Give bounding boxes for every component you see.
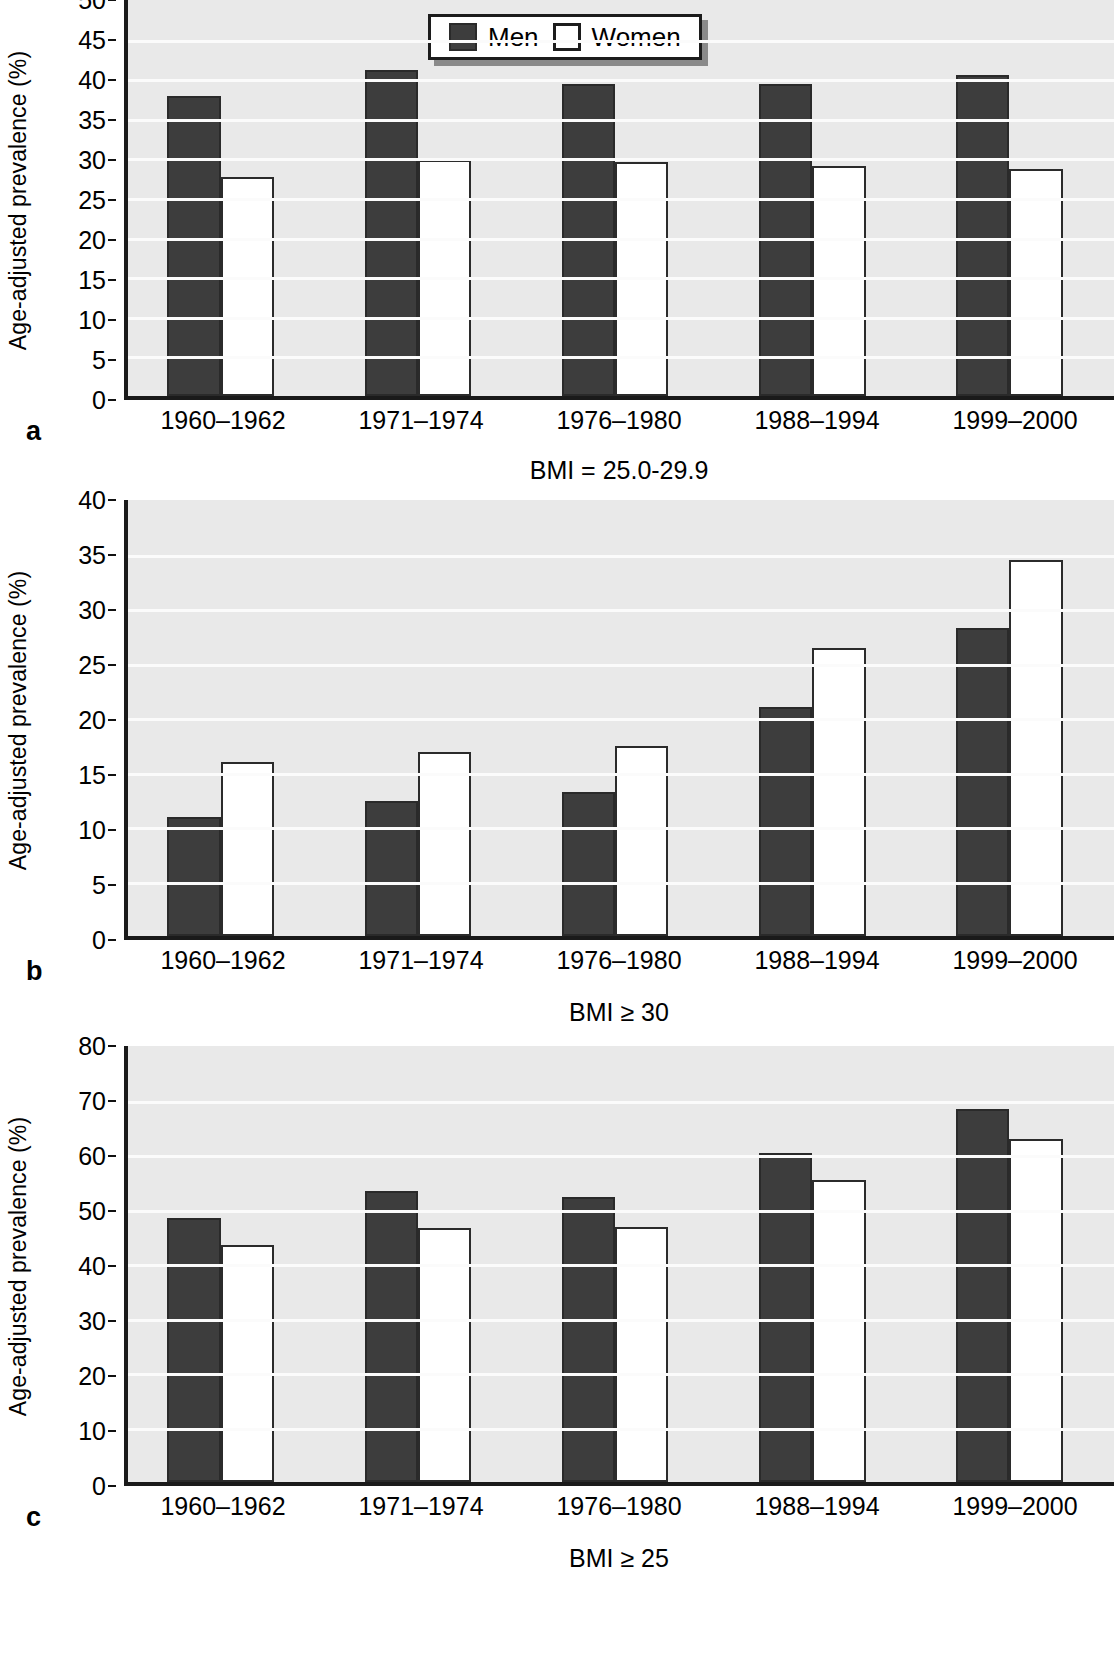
panel-caption-a: BMI = 25.0-29.9: [124, 456, 1114, 485]
bar-men: [167, 96, 220, 396]
y-tick-mark: [108, 1375, 116, 1377]
y-tick-mark: [108, 774, 116, 776]
y-tick-mark: [108, 0, 116, 1]
bar-women: [221, 1245, 274, 1482]
y-tick-label: 30: [78, 598, 106, 623]
x-axis-labels-b: 1960–19621971–19741976–19801988–19941999…: [124, 940, 1114, 980]
x-axis-labels-c: 1960–19621971–19741976–19801988–19941999…: [124, 1486, 1114, 1526]
bar-men: [562, 1197, 615, 1482]
x-axis-label: 1960–1962: [124, 1486, 322, 1526]
gridline: [128, 773, 1114, 776]
y-tick-mark: [108, 159, 116, 161]
y-tick-mark: [108, 719, 116, 721]
x-axis-label: 1976–1980: [520, 940, 718, 980]
y-axis-ticks-b: 0510152025303540: [36, 500, 116, 940]
y-tick-label: 60: [78, 1144, 106, 1169]
y-tick-mark: [108, 279, 116, 281]
y-tick-label: 80: [78, 1034, 106, 1059]
panel-caption-b: BMI ≥ 30: [124, 998, 1114, 1027]
legend: Men Women: [428, 14, 702, 60]
y-tick-label: 0: [92, 388, 106, 413]
bar-women: [812, 1180, 865, 1482]
y-tick-label: 30: [78, 148, 106, 173]
y-tick-mark: [108, 199, 116, 201]
y-tick-mark: [108, 119, 116, 121]
gridline: [128, 609, 1114, 612]
plot-area-a: Men Women: [124, 0, 1114, 400]
y-tick-label: 20: [78, 1364, 106, 1389]
y-tick-label: 15: [78, 763, 106, 788]
gridline: [128, 356, 1114, 359]
bar-men: [562, 792, 615, 936]
bar-women: [1009, 169, 1062, 396]
legend-item-men: Men: [449, 23, 539, 51]
gridline: [128, 882, 1114, 885]
gridline: [128, 79, 1114, 82]
y-tick-label: 15: [78, 268, 106, 293]
y-tick-mark: [108, 1320, 116, 1322]
x-axis-label: 1988–1994: [718, 940, 916, 980]
x-axis-label: 1988–1994: [718, 1486, 916, 1526]
gridline: [128, 238, 1114, 241]
y-tick-mark: [108, 1430, 116, 1432]
gridline: [128, 1319, 1114, 1322]
y-tick-mark: [108, 1100, 116, 1102]
x-axis-label: 1971–1974: [322, 940, 520, 980]
y-tick-mark: [108, 239, 116, 241]
gridline: [128, 317, 1114, 320]
y-tick-mark: [108, 664, 116, 666]
x-axis-label: 1999–2000: [916, 940, 1114, 980]
x-axis-label: 1988–1994: [718, 400, 916, 440]
y-tick-mark: [108, 499, 116, 501]
y-tick-label: 10: [78, 308, 106, 333]
bar-men: [956, 1109, 1009, 1482]
panel-c: Age-adjusted prevalence (%) 010203040506…: [0, 1046, 1114, 1591]
panel-letter-b: b: [26, 958, 43, 985]
x-axis-label: 1971–1974: [322, 400, 520, 440]
x-axis-label: 1960–1962: [124, 940, 322, 980]
bar-women: [418, 752, 471, 936]
gridline: [128, 1373, 1114, 1376]
bar-men: [956, 628, 1009, 936]
panel-letter-a: a: [26, 418, 41, 445]
y-tick-label: 45: [78, 28, 106, 53]
y-axis-title-c: Age-adjusted prevalence (%): [2, 1046, 36, 1486]
y-tick-mark: [108, 1265, 116, 1267]
gridline: [128, 119, 1114, 122]
bar-women: [221, 762, 274, 936]
x-axis-labels-a: 1960–19621971–19741976–19801988–19941999…: [124, 400, 1114, 440]
gridline: [128, 1101, 1114, 1104]
bar-men: [167, 817, 220, 936]
x-axis-label: 1971–1974: [322, 1486, 520, 1526]
y-tick-label: 10: [78, 1419, 106, 1444]
legend-label-men: Men: [488, 24, 539, 50]
y-tick-label: 35: [78, 543, 106, 568]
y-axis-title-a: Age-adjusted prevalence (%): [2, 0, 36, 400]
y-tick-label: 5: [92, 348, 106, 373]
legend-item-women: Women: [553, 23, 681, 51]
bar-women: [812, 648, 865, 936]
y-tick-label: 40: [78, 488, 106, 513]
x-axis-label: 1999–2000: [916, 1486, 1114, 1526]
y-tick-mark: [108, 399, 116, 401]
gridline: [128, 1210, 1114, 1213]
y-tick-label: 20: [78, 228, 106, 253]
panel-caption-c: BMI ≥ 25: [124, 1544, 1114, 1573]
y-tick-label: 40: [78, 1254, 106, 1279]
y-tick-label: 25: [78, 653, 106, 678]
panel-b: Age-adjusted prevalence (%) 051015202530…: [0, 500, 1114, 1046]
gridline: [128, 827, 1114, 830]
y-tick-mark: [108, 1155, 116, 1157]
y-tick-mark: [108, 939, 116, 941]
y-tick-label: 5: [92, 873, 106, 898]
y-tick-mark: [108, 79, 116, 81]
y-tick-label: 50: [78, 0, 106, 13]
y-tick-label: 50: [78, 1199, 106, 1224]
x-axis-label: 1960–1962: [124, 400, 322, 440]
gridline: [128, 1264, 1114, 1267]
legend-swatch-men-icon: [449, 23, 477, 51]
y-tick-label: 30: [78, 1309, 106, 1334]
bar-men: [167, 1218, 220, 1482]
figure-obesity-prevalence: Age-adjusted prevalence (%) 051015202530…: [0, 0, 1114, 1655]
plot-area-b: [124, 500, 1114, 940]
